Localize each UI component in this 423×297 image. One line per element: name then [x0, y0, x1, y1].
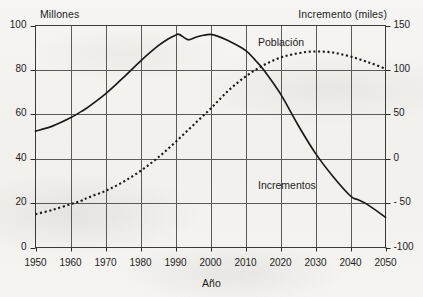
x-axis-tick: 1970	[86, 257, 126, 268]
x-axis-tick: 1990	[156, 257, 196, 268]
left-axis-tick: 100	[0, 19, 27, 30]
series-line-poblacion	[36, 51, 386, 214]
right-axis-tick: 150	[394, 19, 411, 30]
x-axis-tick: 2040	[331, 257, 371, 268]
right-axis-tick: 0	[394, 152, 400, 163]
series-line-incrementos	[36, 34, 386, 217]
x-axis-tick: 1980	[121, 257, 161, 268]
x-axis-tick: 1960	[51, 257, 91, 268]
x-axis-title: Año	[0, 277, 423, 289]
x-axis-tick: 2010	[226, 257, 266, 268]
gridlines-group	[36, 26, 386, 248]
right-axis-tick: -100	[394, 241, 414, 252]
x-axis-tick: 1950	[16, 257, 56, 268]
left-axis-tick: 20	[0, 196, 27, 207]
series-label-incrementos: Incrementos	[258, 179, 316, 191]
x-axis-tick: 2050	[366, 257, 406, 268]
right-axis-tick: 100	[394, 63, 411, 74]
right-axis-title: Incremento (miles)	[298, 8, 387, 20]
x-axis-tick: 2020	[261, 257, 301, 268]
right-axis-tick: - 50	[394, 196, 411, 207]
left-axis-tick: 80	[0, 63, 27, 74]
right-axis-tick: 50	[394, 107, 405, 118]
left-axis-tick: 0	[0, 241, 27, 252]
series-label-poblacion: Población	[258, 36, 304, 48]
chart-canvas	[0, 0, 423, 297]
x-axis-tick: 2030	[296, 257, 336, 268]
chart-figure: Millones Incremento (miles) Año Població…	[0, 0, 423, 297]
left-axis-tick: 60	[0, 107, 27, 118]
left-axis-title: Millones	[40, 8, 79, 20]
tickmarks-group	[31, 27, 391, 252]
x-axis-tick: 2000	[191, 257, 231, 268]
plot-area-frame	[36, 26, 386, 248]
left-axis-tick: 40	[0, 152, 27, 163]
